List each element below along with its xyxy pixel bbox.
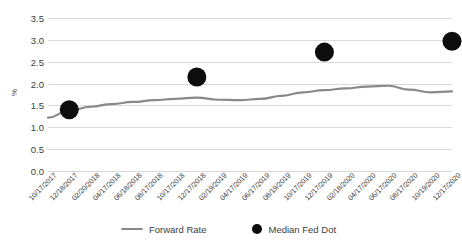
forward-rate-line — [48, 86, 452, 118]
median-fed-dot-marker — [315, 43, 334, 62]
median-fed-dot-marker — [60, 100, 79, 119]
median-fed-dot-marker — [443, 32, 462, 51]
y-axis-tick-label: 3.5 — [18, 13, 44, 24]
legend-item-median-fed-dot[interactable]: Median Fed Dot — [252, 224, 336, 235]
chart-legend: Forward Rate Median Fed Dot — [0, 219, 457, 239]
y-axis-tick-label: 3.0 — [18, 34, 44, 45]
y-axis-tick-label: 1.0 — [18, 122, 44, 133]
median-fed-dot-markers — [60, 32, 462, 120]
series-layer — [48, 18, 452, 171]
y-axis-tick-label: 1.5 — [18, 100, 44, 111]
x-axis-tick-labels: 10/17/201712/18/201702/20/201804/17/2018… — [48, 171, 452, 217]
y-axis-tick-label: 0.0 — [18, 166, 44, 177]
line-swatch-icon — [121, 228, 143, 230]
y-axis-tick-label: 2.0 — [18, 78, 44, 89]
plot-area — [48, 18, 452, 171]
y-axis-tick-label: 0.5 — [18, 144, 44, 155]
circle-swatch-icon — [252, 224, 262, 234]
y-axis-tick-label: 2.5 — [18, 56, 44, 67]
median-fed-dot-marker — [187, 68, 206, 87]
legend-label-median-fed-dot: Median Fed Dot — [268, 224, 336, 235]
legend-item-forward-rate[interactable]: Forward Rate — [121, 224, 207, 235]
y-axis-tick-labels: 0.00.51.01.52.02.53.03.5 — [14, 18, 44, 171]
legend-label-forward-rate: Forward Rate — [149, 224, 207, 235]
